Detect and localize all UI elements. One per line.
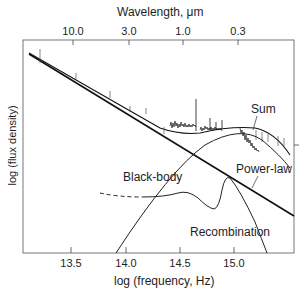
y-axis-label: log (flux density) bbox=[7, 96, 18, 196]
top-tick-10: 10.0 bbox=[62, 26, 83, 37]
top-tick-0-3: 0.3 bbox=[230, 26, 245, 37]
top-tick-1: 1.0 bbox=[175, 26, 190, 37]
bottom-axis-ticks bbox=[71, 247, 234, 253]
bottom-tick-15-0: 15.0 bbox=[223, 258, 244, 269]
observed-spectrum-noise bbox=[170, 121, 259, 152]
error-bars bbox=[40, 49, 284, 146]
bottom-axis-label: log (frequency, Hz) bbox=[114, 275, 214, 287]
recombination-label: Recombination bbox=[190, 226, 270, 238]
sum-label: Sum bbox=[251, 103, 276, 115]
plot-frame bbox=[23, 40, 294, 253]
emission-lines bbox=[196, 99, 222, 131]
power-law-line bbox=[29, 54, 294, 216]
recombination-dashed-segment bbox=[100, 193, 142, 197]
bottom-tick-13-5: 13.5 bbox=[60, 258, 81, 269]
power-law-leader-line bbox=[252, 176, 258, 188]
top-axis-ticks bbox=[73, 40, 238, 45]
top-axis-label: Wavelength, μm bbox=[117, 6, 204, 18]
top-tick-3: 3.0 bbox=[121, 26, 136, 37]
power-law-label: Power-law bbox=[236, 163, 292, 175]
spectrum-chart bbox=[0, 0, 304, 292]
bottom-tick-14-5: 14.5 bbox=[169, 258, 190, 269]
bottom-tick-14-0: 14.0 bbox=[115, 258, 136, 269]
black-body-label: Black-body bbox=[123, 171, 182, 183]
